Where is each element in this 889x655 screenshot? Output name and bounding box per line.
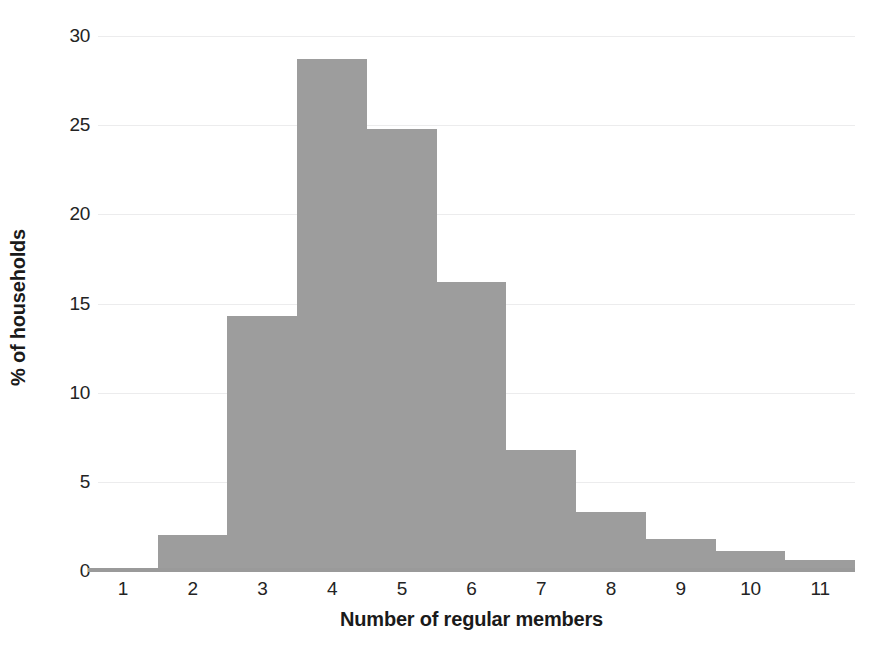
- x-tick-label: 4: [327, 578, 337, 600]
- y-tick-label: 0: [46, 560, 90, 582]
- plot-area: [88, 36, 855, 571]
- bar: [506, 450, 576, 571]
- x-tick-label: 2: [187, 578, 197, 600]
- bar: [297, 59, 367, 571]
- y-tick-label: 20: [46, 203, 90, 225]
- x-tick-label: 5: [397, 578, 407, 600]
- histogram-chart: % of households 051015202530 12345678910…: [0, 0, 889, 655]
- x-axis-title: Number of regular members: [88, 608, 855, 631]
- bar: [437, 282, 507, 571]
- y-tick-label: 5: [46, 471, 90, 493]
- y-tick-label: 10: [46, 382, 90, 404]
- x-tick-label: 1: [118, 578, 128, 600]
- x-tick-label: 7: [536, 578, 546, 600]
- bar: [227, 316, 297, 571]
- bar: [646, 539, 716, 571]
- x-tick-label: 9: [676, 578, 686, 600]
- y-tick-label: 30: [46, 25, 90, 47]
- y-tick-label: 15: [46, 293, 90, 315]
- x-tick-label: 3: [257, 578, 267, 600]
- x-tick-label: 10: [740, 578, 761, 600]
- x-tick-label: 11: [811, 578, 830, 600]
- x-axis-line: [88, 568, 855, 572]
- x-tick-label: 8: [606, 578, 616, 600]
- y-axis-title: % of households: [0, 0, 36, 655]
- bar: [158, 535, 228, 571]
- y-axis-tick-labels: 051015202530: [40, 0, 90, 655]
- bar: [367, 129, 437, 571]
- bars: [88, 36, 855, 571]
- bar: [576, 512, 646, 571]
- x-tick-label: 6: [466, 578, 476, 600]
- y-axis-title-text: % of households: [7, 229, 30, 386]
- x-axis-tick-labels: 1234567891011: [88, 578, 855, 608]
- y-tick-label: 25: [46, 114, 90, 136]
